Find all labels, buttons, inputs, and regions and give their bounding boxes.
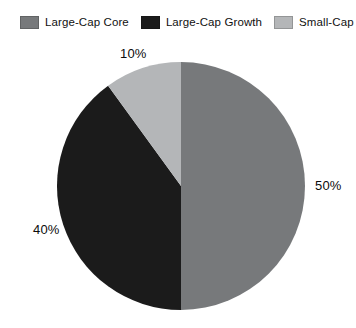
pie-slice-group (57, 62, 305, 310)
pie-plot-area: 10% 50% 40% (0, 0, 356, 328)
pie-svg (0, 0, 356, 328)
slice-value-label-small-cap: 10% (120, 46, 147, 61)
slice-value-label-large-cap-core: 50% (315, 178, 342, 193)
pie-slice-large-cap-core[interactable] (181, 62, 305, 310)
pie-chart-figure: Large-Cap Core Large-Cap Growth Small-Ca… (0, 0, 356, 328)
slice-value-label-large-cap-growth: 40% (33, 222, 60, 237)
